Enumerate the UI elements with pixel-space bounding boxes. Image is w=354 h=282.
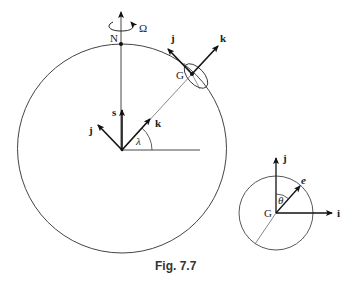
surface-k-label: k [220,32,227,44]
g-label: G [176,69,184,81]
lambda-arc [142,128,152,150]
s-label: s [112,106,117,118]
inset-g-label: G [264,207,272,219]
origin-point [121,149,124,152]
theta-label: θ [278,194,284,206]
j-label: j [88,124,93,136]
inset-j-label: j [282,152,287,164]
j-vector [98,125,122,150]
surface-k-vector [192,46,218,74]
ellipse-axis [192,74,200,89]
figure-caption: Fig. 7.7 [155,259,197,273]
inset-i-label: i [337,207,340,219]
north-label: N [110,32,118,44]
k-label: k [155,117,162,129]
inset-e-label: e [301,174,306,186]
figure-7-7-diagram: Ω N λ s j k G j k j i e θ G Fig. 7.7 [0,0,354,282]
lambda-label: λ [135,135,141,147]
omega-label: Ω [139,22,147,34]
north-point [119,42,123,46]
surface-j-label: j [170,32,175,44]
